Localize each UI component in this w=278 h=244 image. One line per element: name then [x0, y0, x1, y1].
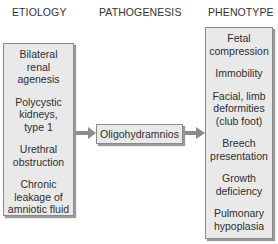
pathogenesis-box: Oligohydramnios — [96, 124, 183, 144]
etiology-item-text: Polycystic — [4, 96, 73, 109]
phenotype-item-text: Pulmonary — [206, 207, 272, 220]
etiology-item-text: kidneys, — [4, 108, 73, 121]
arrow-etiology-to-pathogenesis — [76, 127, 96, 139]
etiology-item: Bilateral renal agenesis — [4, 48, 73, 86]
etiology-item: Urethral obstruction — [4, 143, 73, 168]
phenotype-item-text: Fetal — [206, 32, 272, 45]
etiology-item-text: amniotic fluid — [4, 203, 73, 216]
phenotype-item-text: deformities — [206, 102, 272, 115]
etiology-header: ETIOLOGY — [12, 6, 66, 18]
phenotype-item-text: hypoplasia — [206, 220, 272, 233]
etiology-item-text: obstruction — [4, 156, 73, 169]
etiology-item-text: type 1 — [4, 121, 73, 134]
phenotype-item-text: (club foot) — [206, 115, 272, 128]
phenotype-box: Fetal compression Immobility Facial, lim… — [205, 27, 273, 239]
etiology-item-text: Bilateral — [4, 48, 73, 61]
etiology-item-text: renal — [4, 61, 73, 74]
phenotype-item: Fetal compression — [206, 32, 272, 57]
phenotype-header: PHENOTYPE — [208, 6, 274, 18]
phenotype-item-text: compression — [206, 45, 272, 58]
phenotype-item-text: presentation — [206, 150, 272, 163]
phenotype-item-text: deficiency — [206, 185, 272, 198]
etiology-item-text: Chronic — [4, 178, 73, 191]
phenotype-item-text: Breech — [206, 137, 272, 150]
etiology-item-text: leakage of — [4, 191, 73, 204]
etiology-box: Bilateral renal agenesis Polycystic kidn… — [3, 43, 74, 216]
etiology-item-text: Urethral — [4, 143, 73, 156]
phenotype-item: Growth deficiency — [206, 172, 272, 197]
pathogenesis-header: PATHOGENESIS — [99, 6, 182, 18]
phenotype-item-text: Facial, limb — [206, 90, 272, 103]
phenotype-item-text: Immobility — [206, 67, 272, 80]
phenotype-item: Immobility — [206, 67, 272, 80]
phenotype-item-text: Growth — [206, 172, 272, 185]
etiology-item-text: agenesis — [4, 73, 73, 86]
phenotype-item: Pulmonary hypoplasia — [206, 207, 272, 232]
phenotype-item: Facial, limb deformities (club foot) — [206, 90, 272, 128]
etiology-item: Polycystic kidneys, type 1 — [4, 96, 73, 134]
phenotype-item: Breech presentation — [206, 137, 272, 162]
etiology-item: Chronic leakage of amniotic fluid — [4, 178, 73, 216]
arrow-pathogenesis-to-phenotype — [185, 127, 205, 139]
